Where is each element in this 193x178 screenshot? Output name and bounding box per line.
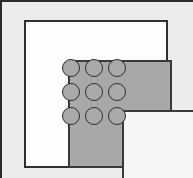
dot-r2-c2 (85, 83, 103, 101)
dot-r3-c1 (62, 107, 80, 125)
diagram-canvas: Outer mat White frame Gray band Inner pa… (0, 0, 193, 178)
frame-inner-panel: Inner panel (122, 110, 193, 178)
dot-r3-c3 (108, 107, 126, 125)
frame-white-label: White frame (26, 22, 27, 23)
dot-r2-c1 (62, 83, 80, 101)
dot-grid (60, 56, 128, 128)
frame-outer-mat-label: Outer mat (2, 2, 3, 3)
dot-r1-c2 (85, 59, 103, 77)
dot-r1-c3 (108, 59, 126, 77)
dot-r3-c2 (85, 107, 103, 125)
dot-r2-c3 (108, 83, 126, 101)
dot-r1-c1 (62, 59, 80, 77)
